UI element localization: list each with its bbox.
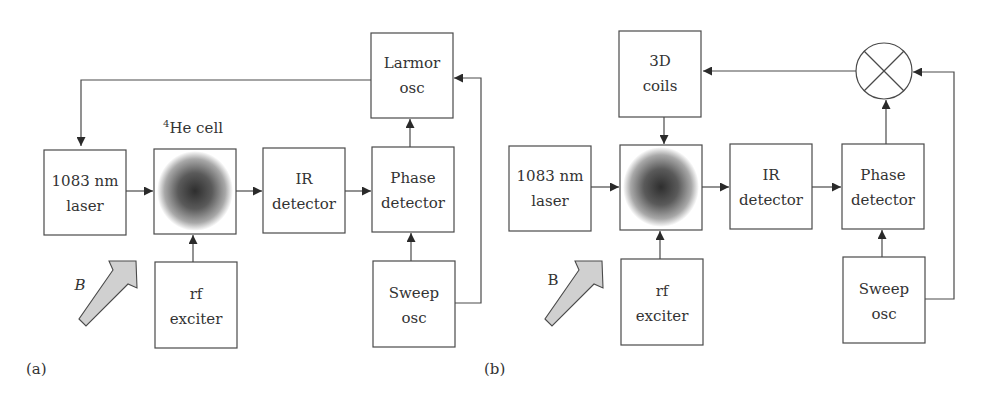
- sweep-osc-block-b: Sweep osc: [843, 257, 925, 343]
- coils-block: 3D coils: [619, 31, 701, 117]
- he-cell-glow: [157, 151, 233, 231]
- rf-exciter-label-b-2: exciter: [636, 307, 689, 325]
- he-cell-block-a: [154, 149, 236, 234]
- laser-block-a: 1083 nm laser: [44, 150, 126, 235]
- laser-label-b-1: 1083 nm: [517, 167, 584, 185]
- larmor-osc-label-2: osc: [399, 79, 424, 97]
- larmor-osc-label-1: Larmor: [384, 54, 441, 72]
- rf-exciter-label-2: exciter: [170, 310, 223, 328]
- phase-detector-label-b-1: Phase: [860, 166, 905, 184]
- laser-label-1: 1083 nm: [52, 172, 119, 190]
- phase-detector-label-1: Phase: [390, 169, 435, 187]
- b-field-label-b: B: [547, 271, 558, 289]
- sweep-osc-label-2: osc: [401, 309, 426, 327]
- ir-detector-label-b-1: IR: [762, 166, 780, 184]
- sweep-osc-label-1: Sweep: [389, 284, 439, 302]
- ir-detector-block-b: IR detector: [730, 144, 812, 229]
- he-cell-block-b: [620, 145, 702, 230]
- ir-detector-label-1: IR: [295, 170, 313, 188]
- panel-a: Larmor osc 4He cell 1083 nm laser IR det…: [26, 33, 481, 378]
- b-field-label-a: B: [73, 276, 85, 294]
- coils-label-2: coils: [643, 77, 678, 95]
- sweep-osc-label-b-2: osc: [871, 305, 896, 323]
- coils-label-1: 3D: [649, 52, 671, 70]
- phase-detector-label-2: detector: [381, 194, 446, 212]
- panel-b: 3D coils 1083 nm laser IR detector: [484, 31, 954, 378]
- caption-b: (b): [484, 360, 505, 378]
- b-field-arrow-b: B: [545, 261, 603, 326]
- sweep-osc-block-a: Sweep osc: [373, 261, 455, 347]
- rf-exciter-label-b-1: rf: [656, 282, 670, 300]
- rf-exciter-label-1: rf: [190, 285, 204, 303]
- phase-detector-block-a: Phase detector: [372, 147, 454, 232]
- rf-exciter-block-b: rf exciter: [621, 259, 703, 345]
- rf-exciter-block-a: rf exciter: [155, 262, 237, 348]
- he-cell-glow-b: [623, 147, 699, 227]
- sweep-osc-label-b-1: Sweep: [859, 280, 909, 298]
- phase-detector-block-b: Phase detector: [842, 144, 924, 229]
- ir-detector-label-2: detector: [272, 195, 337, 213]
- laser-label-2: laser: [66, 197, 104, 215]
- laser-label-b-2: laser: [531, 192, 569, 210]
- caption-a: (a): [26, 360, 47, 378]
- figure-canvas: Larmor osc 4He cell 1083 nm laser IR det…: [0, 0, 987, 397]
- he-cell-label: 4He cell: [163, 118, 223, 137]
- ir-detector-label-b-2: detector: [739, 191, 804, 209]
- mixer-icon: [856, 43, 912, 99]
- larmor-osc-block: Larmor osc: [371, 33, 453, 118]
- ir-detector-block-a: IR detector: [263, 148, 345, 233]
- phase-detector-label-b-2: detector: [851, 191, 916, 209]
- laser-block-b: 1083 nm laser: [509, 146, 591, 231]
